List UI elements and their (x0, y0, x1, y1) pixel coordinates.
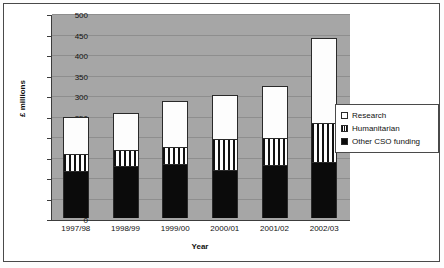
bar-segment-research[interactable] (162, 101, 188, 147)
bar-segment-other-cso[interactable] (162, 164, 188, 218)
y-tick-label: 300 (48, 93, 88, 102)
gridline (52, 76, 350, 77)
bar-segment-research[interactable] (262, 86, 288, 138)
legend-item[interactable]: Other CSO funding (341, 135, 434, 148)
gridline (52, 178, 350, 179)
y-tick-mark (47, 15, 51, 16)
chart-root: £ millions 05010015020025030035040045050… (0, 0, 444, 268)
bar-segment-humanitarian[interactable] (113, 150, 139, 166)
y-tick-mark (47, 138, 51, 139)
x-tick-label: 2002/03 (294, 224, 354, 233)
y-tick-label: 350 (48, 73, 88, 82)
bar-segment-research[interactable] (63, 117, 89, 153)
y-tick-label: 400 (48, 52, 88, 61)
y-tick-mark (47, 200, 51, 201)
legend-label: Research (352, 111, 386, 120)
gridline (52, 96, 350, 97)
gridline (52, 158, 350, 159)
bar-segment-research[interactable] (311, 38, 337, 124)
bar-group[interactable] (113, 113, 139, 218)
gridline (52, 117, 350, 118)
bar-segment-other-cso[interactable] (212, 170, 238, 218)
bar-segment-humanitarian[interactable] (262, 138, 288, 165)
y-tick-label: 450 (48, 32, 88, 41)
bar-group[interactable] (311, 38, 337, 218)
bar-segment-other-cso[interactable] (63, 171, 89, 218)
y-tick-mark (47, 159, 51, 160)
bar-group[interactable] (212, 95, 238, 218)
gridline (52, 35, 350, 36)
bar-segment-humanitarian[interactable] (162, 147, 188, 164)
gridline (52, 55, 350, 56)
bar-segment-humanitarian[interactable] (311, 123, 337, 162)
legend-label: Humanitarian (352, 124, 400, 133)
y-tick-mark (47, 220, 51, 221)
y-tick-mark (47, 179, 51, 180)
y-tick-mark (47, 36, 51, 37)
y-tick-label: 500 (48, 11, 88, 20)
legend-item[interactable]: Research (341, 109, 434, 122)
legend-swatch-icon (341, 112, 348, 119)
bar-segment-other-cso[interactable] (262, 165, 288, 218)
bar-segment-humanitarian[interactable] (212, 139, 238, 171)
x-axis-title: Year (51, 242, 349, 251)
bar-segment-humanitarian[interactable] (63, 154, 89, 171)
gridline (52, 14, 350, 15)
bar-segment-research[interactable] (113, 113, 139, 151)
y-axis-title: £ millions (18, 59, 27, 139)
y-tick-mark (47, 97, 51, 98)
legend-swatch-icon (341, 125, 348, 132)
y-tick-mark (47, 77, 51, 78)
legend-item[interactable]: Humanitarian (341, 122, 434, 135)
legend-label: Other CSO funding (352, 137, 420, 146)
bar-group[interactable] (162, 101, 188, 218)
bar-group[interactable] (63, 117, 89, 218)
plot-area (51, 15, 350, 221)
chart-frame: £ millions 05010015020025030035040045050… (3, 3, 440, 262)
chart-legend: ResearchHumanitarianOther CSO funding (335, 104, 439, 153)
gridline (52, 199, 350, 200)
y-tick-mark (47, 118, 51, 119)
bar-segment-other-cso[interactable] (311, 162, 337, 218)
gridline (52, 137, 350, 138)
bar-segment-other-cso[interactable] (113, 166, 139, 218)
bar-group[interactable] (262, 86, 288, 218)
y-tick-mark (47, 56, 51, 57)
legend-swatch-icon (341, 138, 348, 145)
bar-segment-research[interactable] (212, 95, 238, 139)
